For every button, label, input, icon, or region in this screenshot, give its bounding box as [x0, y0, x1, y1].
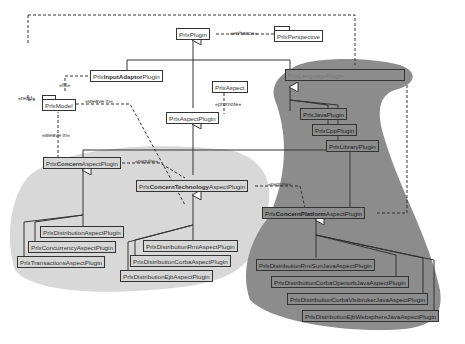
- platform-region: [246, 59, 441, 330]
- transactions-box[interactable]: PrlxTransactionsAspectPlugin: [17, 256, 105, 268]
- concern-post: AspectPlugin: [82, 160, 118, 167]
- dist-rmi-label: PrlxDistributionRmiAspectPlugin: [146, 243, 235, 250]
- fill-label: «fill»: [59, 82, 70, 88]
- distribution-label: PrlxDistributionAspectPlugin: [43, 229, 121, 236]
- model-label: PrlxModel: [45, 102, 73, 109]
- cpp-plugin-label: PrlxCppPlugin: [315, 127, 354, 134]
- concurrency-box[interactable]: PrlxConcurrencyAspectPlugin: [28, 241, 116, 253]
- aspect-label: PrlxAspect: [215, 84, 245, 91]
- distribution-box[interactable]: PrlxDistributionAspectPlugin: [40, 226, 124, 238]
- input-adaptor-post: Plugin: [143, 73, 160, 80]
- aspect-plugin-box[interactable]: PrlxAspectPlugin: [166, 112, 219, 124]
- transactions-label: PrlxTransactionsAspectPlugin: [20, 259, 102, 266]
- rmi-sun-java-box[interactable]: PrlxDistributionRmiSunJavaAspectPlugin: [256, 259, 375, 271]
- dist-rmi-box[interactable]: PrlxDistributionRmiAspectPlugin: [143, 240, 238, 252]
- library-plugin-label: PrlxLibraryPlugin: [329, 143, 376, 150]
- rmi-sun-java-label: PrlxDistributionRmiSunJavaAspectPlugin: [259, 262, 372, 269]
- platform-bold: ConcernPlatform: [276, 210, 326, 217]
- dist-corba-label: PrlxDistributionCorbaAspectPlugin: [133, 258, 228, 265]
- corba-visibroker-java-box[interactable]: PrlxDistributionCorbaVisibrokerJavaAspec…: [287, 293, 428, 305]
- dist-corba-box[interactable]: PrlxDistributionCorbaAspectPlugin: [130, 255, 231, 267]
- library-plugin-box[interactable]: PrlxLibraryPlugin: [326, 140, 379, 152]
- java-plugin-label: PrlxJavaPlugin: [303, 111, 344, 118]
- enhance-label: «enhance»: [230, 30, 257, 36]
- tech-bold: ConcernTechnology: [150, 183, 209, 190]
- aspect-plugin-label: PrlxAspectPlugin: [169, 115, 216, 122]
- ejb-websphere-java-label: PrlxDistributionEjbWebsphereJavaAspectPl…: [305, 313, 436, 320]
- dist-ejb-label: PrlxDistributionEjbAspectPlugin: [123, 273, 210, 280]
- corba-openorb-java-label: PrlxDistributionCorbaOpenorbJavaAspectPl…: [274, 279, 406, 286]
- input-adaptor-pre: Prlx: [93, 73, 104, 80]
- language-plugin-label: PrlxLanguagePlugin: [288, 72, 343, 79]
- require-label-2: «require»: [268, 181, 291, 187]
- plugin-box[interactable]: PrlxPlugin: [176, 28, 210, 40]
- java-plugin-box[interactable]: PrlxJavaPlugin: [300, 108, 347, 120]
- weave-in-label-1: «weave in»: [85, 98, 113, 104]
- ejb-websphere-java-box[interactable]: PrlxDistributionEjbWebsphereJavaAspectPl…: [302, 310, 439, 322]
- tech-post: AspectPlugin: [209, 183, 245, 190]
- platform-post: AspectPlugin: [326, 210, 362, 217]
- input-adaptor-bold: InputAdaptor: [104, 73, 143, 80]
- promote-label: «promote»: [215, 101, 241, 107]
- concern-plugin-box[interactable]: PrlxConcernAspectPlugin: [43, 157, 121, 169]
- concurrency-label: PrlxConcurrencyAspectPlugin: [31, 244, 113, 251]
- corba-openorb-java-box[interactable]: PrlxDistributionCorbaOpenorbJavaAspectPl…: [271, 276, 409, 288]
- language-plugin-box[interactable]: PrlxLanguagePlugin: [285, 69, 405, 81]
- concern-pre: Prlx: [46, 160, 57, 167]
- technology-plugin-box[interactable]: PrlxConcernTechnologyAspectPlugin: [136, 180, 248, 192]
- cpp-plugin-box[interactable]: PrlxCppPlugin: [312, 124, 357, 136]
- tech-pre: Prlx: [139, 183, 150, 190]
- dist-ejb-box[interactable]: PrlxDistributionEjbAspectPlugin: [120, 270, 213, 282]
- require-label-1: «require»: [135, 158, 158, 164]
- aspect-box[interactable]: PrlxAspect: [212, 81, 248, 93]
- plugin-label: PrlxPlugin: [179, 31, 207, 38]
- input-adaptor-box[interactable]: PrlxInputAdaptorPlugin: [90, 70, 163, 82]
- concern-bold: Concern: [57, 160, 82, 167]
- platform-plugin-box[interactable]: PrlxConcernPlatformAspectPlugin: [262, 207, 365, 219]
- platform-pre: Prlx: [265, 210, 276, 217]
- perspective-box[interactable]: PrlxPerspective: [274, 30, 323, 42]
- model-box[interactable]: PrlxModel: [42, 99, 76, 111]
- weave-in-label-2: «weave in»: [42, 132, 70, 138]
- corba-visibroker-java-label: PrlxDistributionCorbaVisibrokerJavaAspec…: [290, 296, 425, 303]
- perspective-label: PrlxPerspective: [277, 33, 320, 40]
- read-label: «read»: [18, 95, 35, 101]
